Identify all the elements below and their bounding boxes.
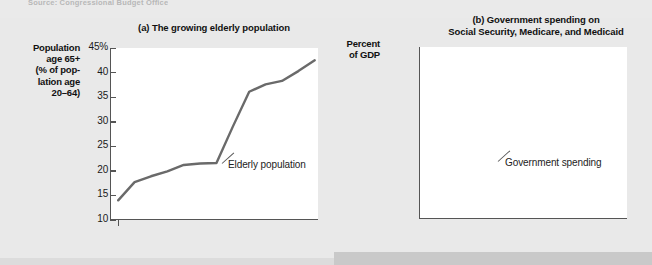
y-tick-mark <box>110 48 116 49</box>
chart-b-title: (b) Government spending on Social Securi… <box>420 14 652 37</box>
y-tick-label: 45% <box>74 41 108 52</box>
chart-b-plot-area <box>419 47 627 219</box>
series-line-1 <box>118 60 315 200</box>
chart-a-axis-caption-line-3: (% of pop- <box>8 64 80 75</box>
page-bottom-band <box>0 258 334 265</box>
y-tick-mark <box>110 72 116 73</box>
chart-b-title-line-2: Social Security, Medicare, and Medicaid <box>420 26 652 38</box>
chart-a-axis-caption-line-1: Population <box>8 42 80 53</box>
chart-b-series-canvas <box>419 47 627 219</box>
chart-a-series-canvas <box>110 48 318 220</box>
y-tick-mark <box>110 195 116 196</box>
y-tick-label: 30 <box>74 115 108 126</box>
figure-page: Source: Congressional Budget Office (a) … <box>0 0 652 265</box>
y-tick-label: 15 <box>74 188 108 199</box>
chart-a-title: (a) The growing elderly population <box>104 22 324 34</box>
chart-a-series-label: Elderly population <box>228 159 306 170</box>
chart-a-axis-caption-line-2: age 65+ <box>8 53 80 64</box>
y-tick-label: 20 <box>74 164 108 175</box>
y-tick-mark <box>110 121 116 122</box>
page-bottom-bar <box>334 252 652 265</box>
chart-b-title-line-1: (b) Government spending on <box>420 14 652 26</box>
y-tick-mark <box>110 220 116 221</box>
y-tick-mark <box>110 170 116 171</box>
chart-b-axis-caption-line-1: Percent <box>320 38 380 49</box>
y-tick-label: 40 <box>74 66 108 77</box>
chart-a-axis-caption-line-4: lation age <box>8 76 80 87</box>
y-tick-label: 10 <box>74 213 108 224</box>
chart-a-plot-area <box>110 48 318 220</box>
y-tick-mark <box>110 146 116 147</box>
chart-b-series-label: Government spending <box>505 157 602 168</box>
y-tick-label: 25 <box>74 139 108 150</box>
chart-b-axis-caption-line-2: of GDP <box>320 49 380 60</box>
x-tick-mark <box>118 220 119 226</box>
chart-b-axis-caption: Percent of GDP <box>320 38 380 60</box>
y-tick-mark <box>110 97 116 98</box>
y-tick-label: 35 <box>74 90 108 101</box>
chart-a-axis-caption: Population age 65+ (% of pop- lation age… <box>8 42 80 98</box>
source-note: Source: Congressional Budget Office <box>28 0 168 7</box>
chart-a-axis-caption-line-5: 20–64) <box>8 87 80 98</box>
